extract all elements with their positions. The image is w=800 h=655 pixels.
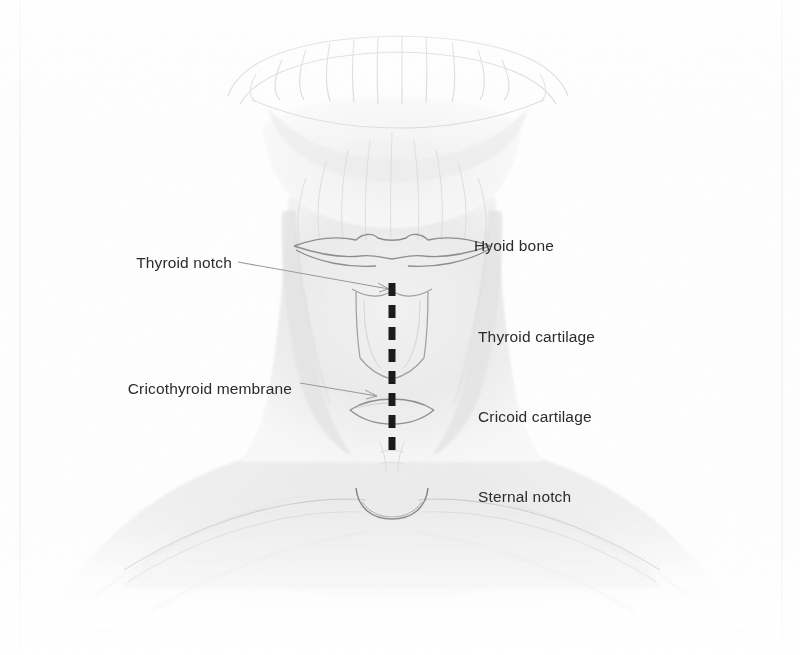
label-sternal-notch: Sternal notch: [478, 489, 571, 505]
label-thyroid-notch: Thyroid notch: [136, 255, 232, 271]
label-cricothyroid-membrane: Cricothyroid membrane: [128, 381, 292, 397]
neck-anatomy-illustration: [0, 0, 800, 655]
label-cricoid-cartilage: Cricoid cartilage: [478, 409, 592, 425]
anatomy-figure: Thyroid notch Cricothyroid membrane Hyoi…: [0, 0, 800, 655]
page-vignette: [0, 0, 800, 655]
label-thyroid-cartilage: Thyroid cartilage: [478, 329, 595, 345]
label-hyoid-bone: Hyoid bone: [474, 238, 554, 254]
